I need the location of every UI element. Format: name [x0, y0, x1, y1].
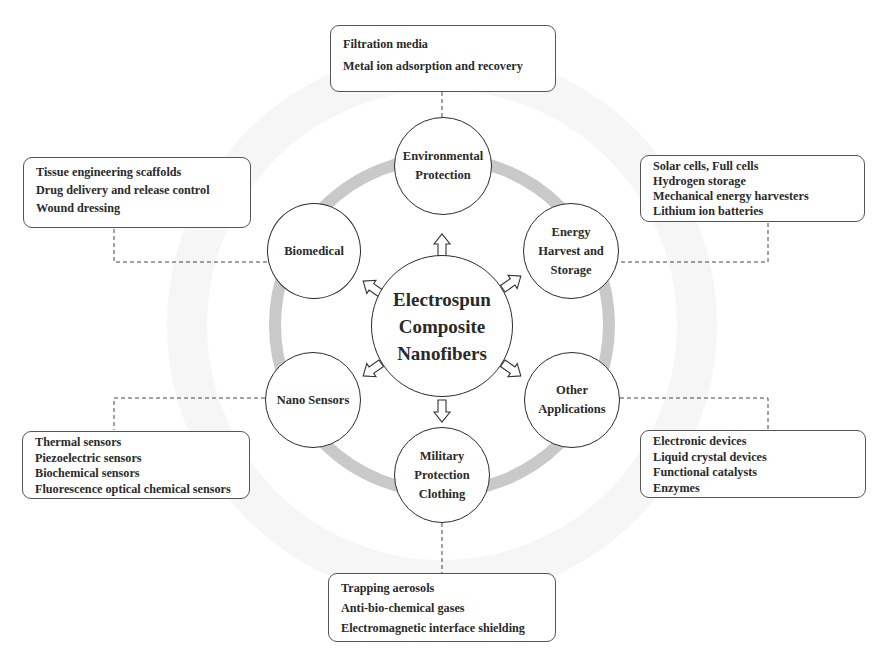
- node-other-applications: Other Applications: [524, 352, 620, 448]
- node-label-line: Biomedical: [284, 242, 344, 261]
- node-biomedical: Biomedical: [267, 203, 361, 299]
- box-item: Drug delivery and release control: [36, 181, 250, 199]
- node-label-line: Military: [414, 447, 469, 466]
- box-item: Metal ion adsorption and recovery: [343, 55, 555, 77]
- node-label-line: Protection: [414, 466, 469, 485]
- node-environmental-protection: Environmental Protection: [394, 117, 492, 215]
- box-item: Electromagnetic interface shielding: [341, 618, 555, 638]
- node-label-line: Storage: [538, 261, 604, 280]
- box-item: Thermal sensors: [35, 435, 249, 451]
- center-label-line: Composite: [393, 313, 491, 340]
- box-item: Piezoelectric sensors: [35, 451, 249, 467]
- box-item: Electronic devices: [653, 434, 865, 450]
- box-item: Lithium ion batteries: [653, 204, 864, 219]
- node-energy-harvest-storage: Energy Harvest and Storage: [523, 203, 619, 299]
- node-label-line: Nano Sensors: [277, 391, 350, 410]
- box-other: Electronic devices Liquid crystal device…: [640, 430, 866, 498]
- box-item: Wound dressing: [36, 199, 250, 217]
- box-item: Hydrogen storage: [653, 174, 864, 189]
- box-item: Mechanical energy harvesters: [653, 189, 864, 204]
- box-item: Trapping aerosols: [341, 578, 555, 598]
- node-label-line: Energy: [538, 223, 604, 242]
- box-environmental: Filtration media Metal ion adsorption an…: [330, 25, 556, 92]
- box-item: Tissue engineering scaffolds: [36, 163, 250, 181]
- box-military: Trapping aerosols Anti-bio-chemical gase…: [328, 573, 556, 642]
- node-label-line: Environmental: [403, 147, 483, 166]
- box-item: Biochemical sensors: [35, 466, 249, 482]
- box-item: Filtration media: [343, 33, 555, 55]
- center-label-line: Electrospun: [393, 286, 491, 313]
- node-nano-sensors: Nano Sensors: [265, 352, 361, 448]
- node-label-line: Harvest and: [538, 242, 604, 261]
- node-military-protection-clothing: Military Protection Clothing: [394, 427, 490, 523]
- box-energy: Solar cells, Full cells Hydrogen storage…: [640, 155, 865, 222]
- node-label-line: Other: [538, 381, 605, 400]
- box-nano-sensors: Thermal sensors Piezoelectric sensors Bi…: [22, 431, 250, 499]
- arrow-up-icon: [434, 234, 450, 256]
- box-item: Functional catalysts: [653, 465, 865, 481]
- arrow-down-icon: [434, 400, 450, 422]
- box-item: Enzymes: [653, 481, 865, 497]
- center-label-line: Nanofibers: [393, 340, 491, 367]
- box-item: Liquid crystal devices: [653, 450, 865, 466]
- node-label-line: Clothing: [414, 485, 469, 504]
- box-biomedical: Tissue engineering scaffolds Drug delive…: [23, 157, 251, 228]
- center-node: Electrospun Composite Nanofibers: [371, 255, 513, 397]
- box-item: Fluorescence optical chemical sensors: [35, 482, 249, 498]
- box-item: Anti-bio-chemical gases: [341, 598, 555, 618]
- node-label-line: Protection: [403, 166, 483, 185]
- node-label-line: Applications: [538, 400, 605, 419]
- box-item: Solar cells, Full cells: [653, 159, 864, 174]
